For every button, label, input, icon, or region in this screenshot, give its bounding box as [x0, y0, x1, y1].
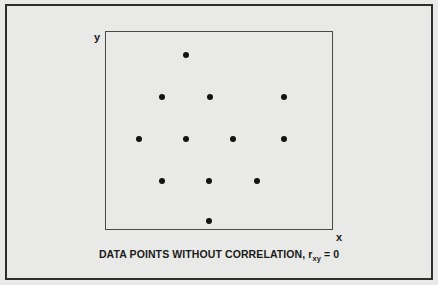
data-point [136, 136, 142, 142]
x-axis-label: x [336, 231, 342, 243]
data-point [230, 136, 236, 142]
data-point [207, 94, 213, 100]
figure-caption: DATA POINTS WITHOUT CORRELATION, rxy = 0 [0, 248, 438, 263]
caption-prefix-text: DATA POINTS WITHOUT CORRELATION, r [99, 248, 313, 260]
data-point [254, 178, 260, 184]
data-point [183, 52, 189, 58]
y-axis-label: y [94, 31, 100, 43]
data-point [206, 178, 212, 184]
data-point [159, 178, 165, 184]
caption-suffix-text: = 0 [321, 248, 339, 260]
data-point [159, 94, 165, 100]
caption-subscript-text: xy [313, 254, 321, 263]
data-point [281, 94, 287, 100]
correlation-figure: y x DATA POINTS WITHOUT CORRELATION, rxy… [0, 0, 438, 285]
data-point [281, 136, 287, 142]
data-point [183, 136, 189, 142]
plot-area [105, 31, 333, 230]
data-point [206, 218, 212, 224]
